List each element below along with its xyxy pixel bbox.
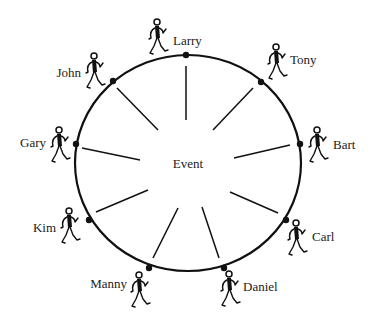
participant-label-manny: Manny: [90, 276, 127, 291]
dot-bart: [297, 141, 303, 147]
participant-label-john: John: [56, 65, 81, 80]
spoke-john: [117, 88, 158, 130]
event-label: Event: [173, 156, 204, 171]
spoke-gary: [82, 148, 140, 160]
participant-label-kim: Kim: [33, 220, 56, 235]
dot-carl: [283, 217, 289, 223]
walking-person-icon: [221, 271, 240, 306]
dot-tony: [258, 79, 264, 85]
spoke-bart: [234, 145, 290, 158]
participant-label-bart: Bart: [333, 137, 356, 152]
dot-gary: [73, 141, 79, 147]
dot-john: [110, 78, 116, 84]
dot-manny: [146, 265, 152, 271]
participant-label-daniel: Daniel: [243, 279, 278, 294]
spoke-daniel: [202, 207, 219, 258]
spoke-kim: [96, 190, 148, 212]
dot-daniel: [221, 265, 227, 271]
dot-larry: [183, 52, 189, 58]
spoke-tony: [213, 88, 253, 130]
event-participants-diagram: Event LarryTonyBartCarlDanielMannyKimGar…: [0, 0, 373, 322]
walking-person-icon: [288, 220, 307, 255]
participant-label-carl: Carl: [312, 229, 335, 244]
spoke-manny: [153, 208, 178, 258]
walking-person-icon: [149, 19, 168, 54]
walking-person-icon: [309, 127, 328, 162]
participant-label-larry: Larry: [173, 33, 202, 48]
walking-person-icon: [61, 208, 80, 243]
dot-kim: [86, 217, 92, 223]
walking-person-icon: [268, 44, 287, 79]
participant-label-tony: Tony: [290, 52, 317, 67]
walking-person-icon: [131, 272, 150, 307]
walking-person-icon: [51, 127, 70, 162]
participant-label-gary: Gary: [20, 135, 46, 150]
walking-person-icon: [86, 53, 105, 88]
spoke-carl: [230, 192, 278, 213]
